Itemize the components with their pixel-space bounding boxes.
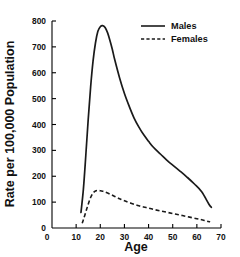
x-axis-title: Age bbox=[124, 240, 148, 254]
x-axis-ticks bbox=[76, 224, 221, 228]
legend-label-females: Females bbox=[171, 34, 208, 44]
series-line-males bbox=[81, 26, 211, 213]
chart-container: 0100200300400500600700800 01020304050607… bbox=[0, 0, 240, 257]
x-tick-label: 20 bbox=[96, 232, 106, 242]
y-tick-label: 800 bbox=[32, 16, 46, 26]
x-tick-label: 50 bbox=[168, 232, 178, 242]
y-tick-label: 400 bbox=[32, 120, 46, 130]
y-tick-label: 200 bbox=[32, 171, 46, 181]
x-tick-label: 0 bbox=[45, 232, 50, 242]
y-tick-label: 700 bbox=[32, 42, 46, 52]
y-tick-label: 600 bbox=[32, 68, 46, 78]
y-tick-label: 500 bbox=[32, 94, 46, 104]
y-tick-label: 100 bbox=[32, 197, 46, 207]
x-tick-label: 10 bbox=[71, 232, 81, 242]
y-axis-ticks bbox=[52, 21, 56, 202]
x-tick-label: 70 bbox=[216, 232, 226, 242]
legend: Males Females bbox=[141, 21, 208, 44]
line-chart: 0100200300400500600700800 01020304050607… bbox=[0, 0, 240, 257]
legend-label-males: Males bbox=[171, 21, 197, 31]
y-axis-title: Rate per 100,000 Population bbox=[3, 41, 17, 208]
series-line-females bbox=[82, 190, 210, 223]
x-tick-label: 60 bbox=[192, 232, 202, 242]
y-tick-label: 300 bbox=[32, 145, 46, 155]
y-axis-tick-labels: 0100200300400500600700800 bbox=[32, 16, 46, 233]
